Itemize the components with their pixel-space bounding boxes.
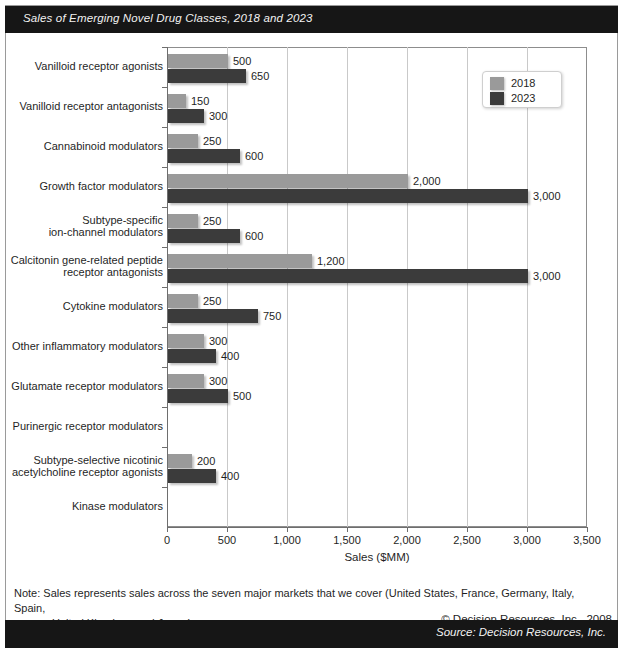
x-axis-tick xyxy=(227,527,228,532)
y-axis-category-label: Purinergic receptor modulators xyxy=(3,420,163,433)
x-axis-tick xyxy=(467,527,468,532)
y-axis-label-line: Cytokine modulators xyxy=(3,300,163,313)
bar-2018-0 xyxy=(168,54,228,68)
bar-2023-8 xyxy=(168,389,228,403)
y-axis-tick xyxy=(162,407,167,408)
bar-value-label: 250 xyxy=(203,134,221,148)
y-axis-tick xyxy=(162,447,167,448)
bar-2018-6 xyxy=(168,294,198,308)
x-axis-title: Sales ($MM) xyxy=(344,551,409,563)
x-axis-tick-label: 0 xyxy=(164,534,170,546)
y-axis-label-line: acetylcholine receptor agonists xyxy=(3,466,163,479)
note-line-1: Note: Sales represents sales across the … xyxy=(14,587,574,614)
bar-value-label: 500 xyxy=(233,54,251,68)
bar-value-label: 750 xyxy=(263,309,281,323)
y-axis-category-label: Kinase modulators xyxy=(3,500,163,513)
bar-value-label: 200 xyxy=(197,454,215,468)
y-axis-tick xyxy=(162,367,167,368)
bar-value-label: 250 xyxy=(203,294,221,308)
source-text: Source: Decision Resources, Inc. xyxy=(436,626,606,638)
y-axis-label-line: Other inflammatory modulators xyxy=(3,340,163,353)
y-axis-category-label: Subtype-specificion-channel modulators xyxy=(3,214,163,239)
y-axis-label-line: Growth factor modulators xyxy=(3,180,163,193)
y-axis-category-label: Growth factor modulators xyxy=(3,180,163,193)
y-axis-category-label: Cytokine modulators xyxy=(3,300,163,313)
plot-box xyxy=(167,47,587,527)
bar-value-label: 2,000 xyxy=(413,174,441,188)
y-axis-tick xyxy=(162,247,167,248)
y-axis-label-line: ion-channel modulators xyxy=(3,226,163,239)
bar-2018-8 xyxy=(168,374,204,388)
y-axis-label-line: Purinergic receptor modulators xyxy=(3,420,163,433)
y-axis-category-label: Cannabinoid modulators xyxy=(3,140,163,153)
y-axis-category-label: Vanilloid receptor agonists xyxy=(3,60,163,73)
x-axis-tick xyxy=(287,527,288,532)
y-axis-tick xyxy=(162,87,167,88)
bar-value-label: 300 xyxy=(209,374,227,388)
x-axis-tick-label: 500 xyxy=(218,534,236,546)
y-axis-tick xyxy=(162,47,167,48)
bar-2023-4 xyxy=(168,229,240,243)
y-axis-tick xyxy=(162,287,167,288)
legend-swatch-2023 xyxy=(490,92,504,105)
y-axis-category-label: Glutamate receptor modulators xyxy=(3,380,163,393)
y-axis-tick xyxy=(162,127,167,128)
bar-value-label: 600 xyxy=(245,149,263,163)
bar-value-label: 1,200 xyxy=(317,254,345,268)
bar-2018-1 xyxy=(168,94,186,108)
x-axis-tick xyxy=(587,527,588,532)
gridline xyxy=(407,47,408,527)
x-axis-tick xyxy=(347,527,348,532)
chart-page: Sales of Emerging Novel Drug Classes, 20… xyxy=(0,0,624,653)
bar-2018-10 xyxy=(168,454,192,468)
bar-2023-6 xyxy=(168,309,258,323)
bar-2023-0 xyxy=(168,69,246,83)
bar-2023-5 xyxy=(168,269,528,283)
bar-2018-5 xyxy=(168,254,312,268)
x-axis-tick-label: 1,500 xyxy=(333,534,361,546)
bar-value-label: 500 xyxy=(233,389,251,403)
x-axis-tick xyxy=(167,527,168,532)
bar-2023-2 xyxy=(168,149,240,163)
bar-2023-3 xyxy=(168,189,528,203)
bar-2018-4 xyxy=(168,214,198,228)
gridline xyxy=(467,47,468,527)
bar-value-label: 250 xyxy=(203,214,221,228)
y-axis-label-line: Glutamate receptor modulators xyxy=(3,380,163,393)
y-axis-label-line: Kinase modulators xyxy=(3,500,163,513)
source-band: Source: Decision Resources, Inc. xyxy=(5,620,618,648)
y-axis-category-label: Subtype-selective nicotinicacetylcholine… xyxy=(3,454,163,479)
y-axis-label-line: Vanilloid receptor agonists xyxy=(3,60,163,73)
bar-2023-7 xyxy=(168,349,216,363)
y-axis-tick xyxy=(162,207,167,208)
bar-2023-10 xyxy=(168,469,216,483)
y-axis-label-line: receptor antagonists xyxy=(3,266,163,279)
x-axis-tick-label: 3,500 xyxy=(573,534,601,546)
y-axis-tick xyxy=(162,327,167,328)
y-axis-category-label: Vanilloid receptor antagonists xyxy=(3,100,163,113)
bar-value-label: 650 xyxy=(251,69,269,83)
y-axis-category-label: Other inflammatory modulators xyxy=(3,340,163,353)
gridline xyxy=(347,47,348,527)
bar-value-label: 400 xyxy=(221,349,239,363)
legend-label-2018: 2018 xyxy=(511,77,535,90)
y-axis-label-line: Calcitonin gene-related peptide xyxy=(3,254,163,267)
y-axis-category-labels: Vanilloid receptor agonistsVanilloid rec… xyxy=(0,0,163,653)
x-axis-tick-label: 3,000 xyxy=(513,534,541,546)
x-axis-tick-label: 1,000 xyxy=(273,534,301,546)
bar-value-label: 600 xyxy=(245,229,263,243)
x-axis-tick xyxy=(527,527,528,532)
bar-value-label: 3,000 xyxy=(533,189,561,203)
x-axis-line xyxy=(167,527,587,528)
bar-value-label: 150 xyxy=(191,94,209,108)
gridline xyxy=(527,47,528,527)
bar-value-label: 300 xyxy=(209,109,227,123)
bar-value-label: 300 xyxy=(209,334,227,348)
x-axis-tick-label: 2,000 xyxy=(393,534,421,546)
gridline xyxy=(287,47,288,527)
y-axis-label-line: Vanilloid receptor antagonists xyxy=(3,100,163,113)
bar-2018-3 xyxy=(168,174,408,188)
y-axis-label-line: Cannabinoid modulators xyxy=(3,140,163,153)
chart-legend: 2018 2023 xyxy=(482,71,562,108)
bar-value-label: 400 xyxy=(221,469,239,483)
